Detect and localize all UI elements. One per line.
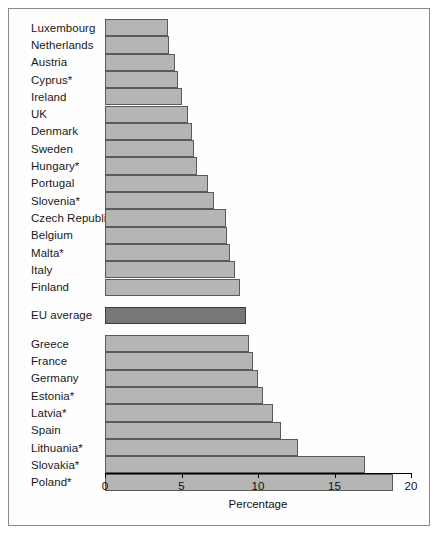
chart-row: France [9, 352, 429, 369]
chart-row: Czech Republic* [9, 209, 429, 226]
bar [105, 279, 240, 296]
x-axis-tick [258, 473, 259, 478]
category-label: Spain [31, 424, 61, 436]
chart-row: Malta* [9, 244, 429, 261]
chart-row: Portugal [9, 175, 429, 192]
category-label: Luxembourg [31, 22, 95, 34]
chart-row: Lithuania* [9, 439, 429, 456]
chart-row: Greece [9, 335, 429, 352]
chart-row: UK [9, 106, 429, 123]
bar [105, 36, 169, 53]
category-label: Slovenia* [31, 195, 80, 207]
category-label: UK [31, 108, 47, 120]
plot-area: LuxembourgNetherlandsAustriaCyprus*Irela… [9, 9, 429, 525]
chart-row: Slovenia* [9, 192, 429, 209]
bar [105, 123, 192, 140]
x-axis-tick [335, 473, 336, 478]
x-axis-tick [105, 473, 106, 478]
category-label: Denmark [31, 125, 78, 137]
chart-row: Netherlands [9, 36, 429, 53]
chart-row: Slovakia* [9, 456, 429, 473]
chart-row: Sweden [9, 140, 429, 157]
bar [105, 192, 214, 209]
bar [105, 106, 188, 123]
bar [105, 54, 175, 71]
bar [105, 422, 281, 439]
x-axis-tick-label: 5 [178, 480, 184, 492]
chart-row: Italy [9, 261, 429, 278]
category-label: Hungary* [31, 160, 79, 172]
category-label: Netherlands [31, 39, 94, 51]
bar [105, 352, 253, 369]
chart-row-eu-average: EU average [9, 307, 429, 324]
category-label: Austria [31, 56, 67, 68]
category-label: Ireland [31, 91, 67, 103]
bar [105, 209, 226, 226]
bar [105, 244, 230, 261]
bar [105, 387, 263, 404]
chart-row: Luxembourg [9, 19, 429, 36]
chart-row: Ireland [9, 88, 429, 105]
bar [105, 19, 168, 36]
x-axis-tick [411, 473, 412, 478]
bar [105, 157, 197, 174]
category-label: EU average [31, 309, 92, 321]
bar [105, 71, 178, 88]
category-label: Finland [31, 281, 69, 293]
bar [105, 227, 227, 244]
chart-row: Denmark [9, 123, 429, 140]
category-label: Cyprus* [31, 74, 72, 86]
category-label: Germany [31, 372, 79, 384]
bar [105, 175, 208, 192]
category-label: Portugal [31, 177, 74, 189]
chart-row: Belgium [9, 227, 429, 244]
bar [105, 140, 194, 157]
x-axis-tick-label: 0 [102, 480, 108, 492]
category-label: Lithuania* [31, 442, 83, 454]
bar [105, 370, 258, 387]
bar-eu-average [105, 307, 246, 324]
chart-row: Latvia* [9, 404, 429, 421]
bar [105, 88, 182, 105]
category-label: France [31, 355, 67, 367]
category-label: Latvia* [31, 407, 67, 419]
chart-row: Poland* [9, 474, 429, 491]
x-axis-tick-label: 20 [405, 480, 418, 492]
category-label: Slovakia* [31, 459, 79, 471]
bar [105, 404, 273, 421]
bar [105, 456, 365, 473]
category-label: Belgium [31, 229, 73, 241]
chart-row: Germany [9, 370, 429, 387]
category-label: Sweden [31, 143, 73, 155]
chart-row: Spain [9, 422, 429, 439]
x-axis-tick-label: 15 [328, 480, 341, 492]
bar [105, 335, 249, 352]
category-label: Greece [31, 338, 69, 350]
bar [105, 439, 298, 456]
chart-row: Finland [9, 279, 429, 296]
category-label: Italy [31, 264, 52, 276]
chart-row: Hungary* [9, 157, 429, 174]
category-label: Czech Republic* [31, 212, 117, 224]
x-axis-tick-label: 10 [252, 480, 265, 492]
bar [105, 474, 393, 491]
chart-row: Estonia* [9, 387, 429, 404]
category-label: Poland* [31, 476, 72, 488]
chart-row: Cyprus* [9, 71, 429, 88]
category-label: Malta* [31, 247, 64, 259]
chart-row: Austria [9, 54, 429, 71]
x-axis-title: Percentage [105, 498, 411, 510]
bar [105, 261, 235, 278]
chart-figure: LuxembourgNetherlandsAustriaCyprus*Irela… [8, 8, 430, 526]
x-axis-tick [182, 473, 183, 478]
category-label: Estonia* [31, 390, 74, 402]
